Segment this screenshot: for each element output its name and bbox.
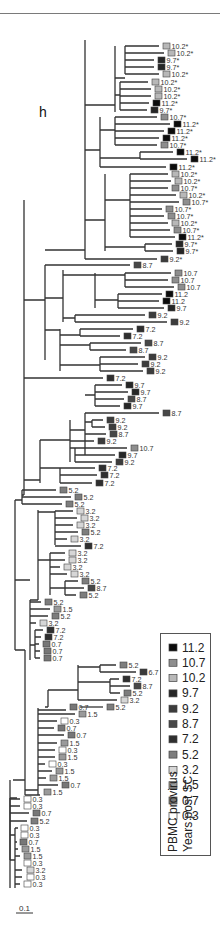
leaf-marker-icon [158,64,165,70]
leaf-node: 7.2 [85,542,104,551]
leaf-marker-icon [142,361,149,367]
legend-label: 3.2 [182,763,199,777]
leaf-label: 7.2 [105,479,115,488]
leaf-node: 5.2 [60,486,79,495]
leaf-node: 8.7 [134,261,153,270]
leaf-node: 0.7 [44,654,63,663]
leaf-marker-icon [177,248,184,254]
legend-swatch-icon [169,736,177,743]
leaf-node: 5.2 [80,591,99,600]
leaf-label: 9.7 [133,402,143,411]
legend-label: 7.2 [182,732,199,746]
leaf-marker-icon [71,536,78,542]
leaf-node: 9.7 [168,304,187,313]
leaf-node: 6.7 [140,668,159,677]
leaf-label: 8.7 [143,682,153,691]
leaf-node: 5.2 [120,661,139,670]
legend-label: 9.2 [182,702,199,716]
leaf-marker-icon [174,227,181,233]
leaf-marker-icon [79,711,86,717]
leaf-label: 5.2 [129,661,139,670]
leaf-marker-icon [62,782,69,788]
tree-branch [105,244,173,251]
leaf-node: 1.5 [44,788,63,797]
tree-branch [85,174,105,251]
leaf-node: 0.3 [24,802,43,811]
leaf-node: 1.5 [79,710,98,719]
leaf-node: 9.2 [98,437,117,446]
leaf-label: 9.7 [177,304,187,313]
leaf-label: 3.2 [80,570,90,579]
leaf-label: 10.7* [192,198,209,207]
tree-branch [45,270,63,322]
leaf-label: 6.7 [149,668,159,677]
leaf-marker-icon [170,164,177,170]
leaf-marker-icon [60,487,67,493]
leaf-marker-icon [172,220,179,226]
leaf-label: 1.5 [53,788,63,797]
leaf-label: 9.2 [125,458,135,467]
leaf-label: 10.7 [140,444,154,453]
leaf-marker-icon [58,725,65,731]
leaf-marker-icon [107,375,114,381]
leaf-label: 5.2 [61,612,71,621]
leaf-marker-icon [171,319,178,325]
tree-branch [115,82,151,110]
leaf-marker-icon [98,438,105,444]
leaf-label: 10.7 [187,283,201,292]
leaf-marker-icon [24,853,31,859]
tree-branch [24,265,45,360]
leaf-label: 8.7 [119,430,129,439]
leaf-label: 7.2 [133,332,143,341]
leaf-marker-icon [163,410,170,416]
leaf-label: 7.2 [146,325,156,334]
tree-branch [25,708,38,795]
leaf-marker-icon [107,417,114,423]
legend-swatch-icon [169,690,177,697]
leaf-marker-icon [163,298,170,304]
leaf-marker-icon [151,107,158,113]
leaf-marker-icon [123,676,130,682]
tree-branch [60,357,145,371]
leaf-label: 1.5 [88,710,98,719]
legend-label: 9.7 [182,686,199,700]
leaf-marker-icon [24,881,31,887]
tree-branch [70,413,85,455]
tree-branch [100,117,170,145]
leaf-marker-icon [45,599,52,605]
legend-title: PBMC provirus [166,771,180,852]
tree-branch [10,798,17,888]
leaf-node: 0.7 [62,781,81,790]
leaf-marker-icon [70,704,77,710]
leaf-marker-icon [33,810,40,816]
leaf-node: 5.2 [66,500,85,509]
leaf-node: 5.2 [45,598,64,607]
leaf-node: 9.2 [147,367,166,376]
leaf-marker-icon [176,241,183,247]
tree-branch [115,46,164,78]
leaf-label: 8.7 [139,346,149,355]
leaf-marker-icon [44,648,51,654]
leaf-marker-icon [180,192,187,198]
legend: 11.210.710.29.79.28.77.25.23.21.50.70.3P… [160,633,211,856]
leaf-marker-icon [147,368,154,374]
legend-swatch-icon [169,675,177,682]
leaf-label: 9.2 [180,318,190,327]
leaf-node: 8.7 [130,346,149,355]
tree-branch [45,329,60,371]
leaf-marker-icon [27,867,34,873]
leaf-marker-icon [49,761,56,767]
legend-swatch-icon [169,721,177,728]
leaf-label: 9.2 [158,311,168,320]
leaf-marker-icon [168,305,175,311]
leaf-marker-icon [44,789,51,795]
legend-swatch-icon [169,644,177,651]
tree-branch [22,200,24,495]
leaf-node: 3.2 [71,570,90,579]
leaf-marker-icon [107,704,114,710]
tree-branch [45,690,48,707]
tree-branch [78,679,130,693]
leaf-node: 5.2 [107,703,126,712]
leaf-marker-icon [163,43,170,49]
leaf-node: 3.2 [71,535,90,544]
